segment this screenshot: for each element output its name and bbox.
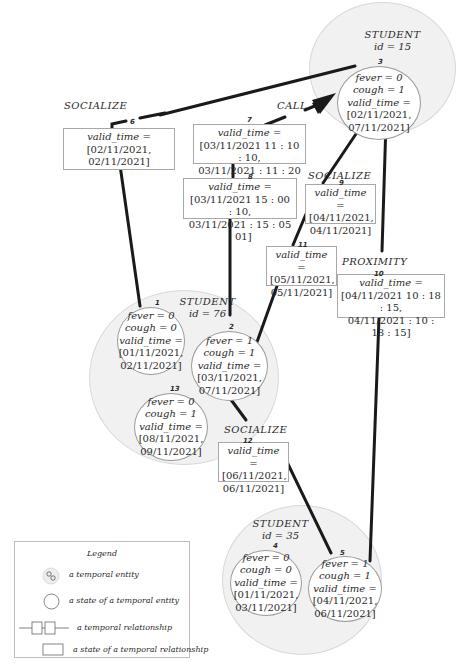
state-5[interactable]: fever = 1 cough = 1 valid_time = [04/11/… [308,556,382,622]
state-2-number: 2 [229,323,234,331]
relationship-icon [19,621,69,635]
entity-title-76: STUDENT id = 76 [170,296,245,320]
legend-label-state-entity: a state of a temporal entity [69,596,179,605]
state-2[interactable]: fever = 1 cough = 1 valid_time = [03/11/… [191,331,268,401]
state-13[interactable]: fever = 0 cough = 1 valid_time = [08/11/… [134,393,208,461]
state-4[interactable]: fever = 0 cough = 0 valid_time = [01/11/… [230,550,302,616]
rel-state-6[interactable]: valid_time = [02/11/2021, 02/11/2021] [63,128,175,170]
legend-title: Legend [15,549,189,558]
rel-label-socialize-6: SOCIALIZE [64,100,127,111]
entity-title-15: STUDENT id = 15 [355,29,430,53]
rel-9-number: 9 [339,179,344,187]
rel-label-call-7: CALL [277,100,307,111]
rel-state-10[interactable]: valid_time = [04/11/2021 10 : 18 : 15, 0… [337,274,445,318]
edge-state-3-to-10 [382,122,386,251]
legend-label-relationship: a temporal relationship [77,623,172,632]
state-3-number: 3 [378,58,383,66]
rel-state-8[interactable]: valid_time = [03/11/2021 15 : 00 : 10, 0… [183,178,297,219]
rel-7-number: 7 [247,116,252,124]
rel-state-11[interactable]: valid_time = [05/11/2021, 05/11/2021] [266,246,337,286]
entity-title-35: STUDENT id = 35 [243,518,318,542]
legend: Legend a temporal entity a state of a te… [14,541,190,658]
rel-state-7[interactable]: valid_time = [03/11/2021 11 : 10 : 10, 0… [193,124,306,164]
legend-label-temporal-entity: a temporal entity [69,570,139,579]
state-3[interactable]: fever = 0 cough = 1 valid_time = [02/11/… [337,66,421,140]
rel-11-number: 11 [298,241,308,249]
rel-10-number: 10 [374,270,384,278]
edge-10-to-state-5 [370,318,379,561]
state-5-number: 5 [340,549,345,557]
rel-12-number: 12 [243,437,253,445]
state-rect-icon [42,643,64,656]
state-1[interactable]: fever = 0 cough = 0 valid_time = [01/11/… [117,307,185,375]
rel-6-number: 6 [130,118,135,126]
edge-socialize-6-to-state-3 [112,121,126,128]
rel-state-9[interactable]: valid_time = [04/11/2021, 04/11/2021] [305,184,376,224]
rel-8-number: 8 [248,173,253,181]
rel-label-proximity-10: PROXIMITY [342,256,407,267]
rel-state-12[interactable]: valid_time = [06/11/2021, 06/11/2021] [218,442,289,482]
rel-label-socialize-12: SOCIALIZE [224,424,287,435]
state-13-number: 13 [170,385,180,393]
temporal-entity-icon [41,567,61,585]
legend-label-state-relationship: a state of a temporal relationship [73,645,208,654]
state-1-number: 1 [155,299,160,307]
state-circle-icon [43,593,60,610]
edge-socialize-6-to-state-1 [120,165,140,306]
state-4-number: 4 [273,542,278,550]
